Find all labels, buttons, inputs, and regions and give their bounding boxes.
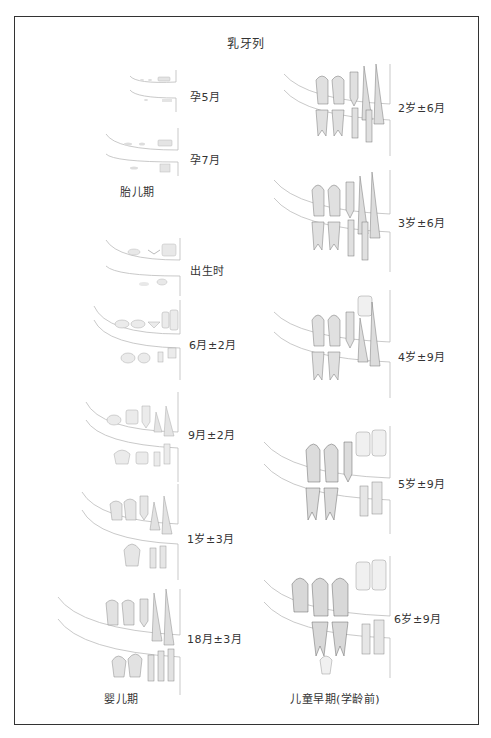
section-label-early-childhood: 儿童早期(学龄前) bbox=[290, 690, 380, 706]
stage-label-5y: 5岁±9月 bbox=[398, 475, 446, 491]
stage-label-1y: 1岁±3月 bbox=[187, 530, 235, 546]
stage-label-birth: 出生时 bbox=[190, 262, 225, 278]
dentition-figure-2y bbox=[282, 60, 392, 156]
dentition-figure-1y bbox=[80, 480, 180, 580]
dentition-figure-5y bbox=[262, 420, 392, 535]
dentition-figure-fetal-5m bbox=[128, 68, 178, 113]
stage-label-6y: 6岁±9月 bbox=[394, 610, 442, 626]
section-label-infancy: 婴儿期 bbox=[104, 690, 139, 706]
dentition-figure-6m bbox=[92, 300, 182, 380]
stage-label-9m: 9月±2月 bbox=[188, 426, 236, 442]
dentition-figure-birth bbox=[104, 236, 182, 298]
section-label-fetal: 胎儿期 bbox=[120, 183, 155, 199]
dentition-figure-4y bbox=[272, 288, 392, 398]
dentition-figure-3y bbox=[272, 166, 392, 276]
diagram-title: 乳牙列 bbox=[227, 34, 265, 51]
dentition-figure-9m bbox=[84, 392, 180, 482]
stage-label-18m: 18月±3月 bbox=[187, 630, 242, 646]
stage-label-fetal-7m: 孕7月 bbox=[190, 151, 221, 167]
stage-label-4y: 4岁±9月 bbox=[398, 348, 446, 364]
stage-label-2y: 2岁±6月 bbox=[398, 99, 446, 115]
stage-label-6m: 6月±2月 bbox=[189, 336, 237, 352]
stage-label-fetal-5m: 孕5月 bbox=[190, 88, 221, 104]
dentition-figure-18m bbox=[56, 585, 182, 695]
dentition-figure-fetal-7m bbox=[104, 128, 180, 176]
stage-label-3y: 3岁±6月 bbox=[398, 214, 446, 230]
dentition-figure-6y bbox=[262, 550, 392, 680]
